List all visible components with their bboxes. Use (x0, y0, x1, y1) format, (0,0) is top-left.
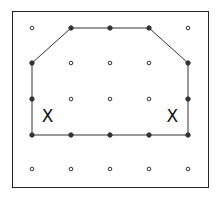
peg-filled (186, 97, 190, 101)
peg-empty (30, 167, 34, 171)
peg-empty (69, 167, 73, 171)
peg-filled (108, 26, 112, 30)
peg-filled (186, 61, 190, 65)
peg-empty (147, 167, 151, 171)
polygon-layer (32, 28, 188, 135)
peg-filled (30, 61, 34, 65)
peg-filled (69, 26, 73, 30)
peg-layer (30, 26, 190, 171)
peg-filled (186, 133, 190, 137)
x-mark: X (167, 106, 179, 126)
peg-filled (30, 97, 34, 101)
peg-empty (108, 167, 112, 171)
peg-empty (108, 97, 112, 101)
geoboard-diagram: XX (0, 0, 217, 197)
peg-filled (147, 133, 151, 137)
peg-empty (69, 97, 73, 101)
peg-filled (30, 133, 34, 137)
peg-filled (108, 133, 112, 137)
peg-empty (186, 167, 190, 171)
x-mark: X (42, 106, 54, 126)
peg-empty (147, 61, 151, 65)
peg-empty (108, 61, 112, 65)
mark-layer: XX (42, 106, 179, 126)
enclosed-polygon (32, 28, 188, 135)
peg-filled (147, 26, 151, 30)
peg-filled (69, 133, 73, 137)
peg-empty (69, 61, 73, 65)
peg-empty (147, 97, 151, 101)
peg-empty (30, 26, 34, 30)
peg-empty (186, 26, 190, 30)
